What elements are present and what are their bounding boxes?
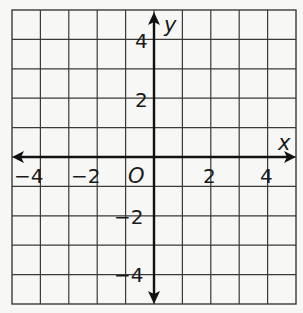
y-tick-label: −4 (114, 263, 143, 287)
y-axis-label: y (163, 13, 177, 37)
coordinate-plane: y x O −4 −2 2 4 4 2 −2 −4 (0, 0, 303, 313)
y-tick-label: 4 (135, 29, 148, 53)
y-tick-label: −2 (114, 205, 143, 229)
x-tick-label: −2 (71, 164, 100, 188)
x-tick-label: 2 (203, 164, 216, 188)
x-tick-label: 4 (260, 164, 273, 188)
origin-label: O (128, 164, 145, 188)
x-tick-label: −4 (14, 164, 43, 188)
y-tick-label: 2 (135, 88, 148, 112)
x-axis-label: x (277, 131, 291, 155)
